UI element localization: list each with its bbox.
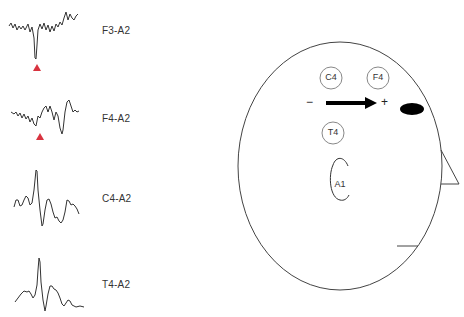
dipole-positive-sign: + [381, 95, 388, 109]
electrode-label-t4: T4 [322, 127, 344, 137]
trace-label-f3-a2: F3-A2 [102, 25, 130, 36]
marker-triangle-f3 [33, 64, 41, 71]
electrode-label-f4: F4 [367, 72, 389, 82]
trace-f3-a2 [9, 12, 78, 59]
trace-t4-a2 [15, 258, 84, 311]
dipole-negative-sign: − [306, 95, 313, 109]
trace-label-c4-a2: C4-A2 [102, 193, 131, 204]
ear-label-a1: A1 [329, 179, 351, 189]
trace-label-t4-a2: T4-A2 [102, 279, 130, 290]
diagram-canvas [0, 0, 464, 317]
trace-label-f4-a2: F4-A2 [102, 113, 130, 124]
dipole-arrow-head [365, 97, 377, 109]
trace-f4-a2 [11, 100, 79, 134]
nose-shape [441, 150, 459, 184]
electrode-label-c4: C4 [320, 72, 342, 82]
eye-shape [400, 103, 424, 115]
marker-triangle-f4 [36, 133, 44, 140]
trace-c4-a2 [14, 170, 79, 226]
